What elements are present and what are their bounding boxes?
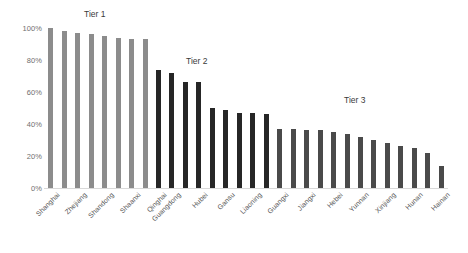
bar xyxy=(129,39,134,188)
x-axis-tick-label-text: Shaanxi xyxy=(118,191,141,214)
bar xyxy=(143,39,148,188)
x-axis-tick-label-text: Hainan xyxy=(430,191,451,212)
x-axis-tick-label-text: Shandong xyxy=(86,191,114,219)
bar xyxy=(250,113,255,188)
bar xyxy=(345,134,350,188)
bar-series xyxy=(44,28,448,188)
x-axis-tick-label: Zhejiang xyxy=(63,191,88,216)
y-axis-tick-label: 60% xyxy=(2,88,42,97)
bar xyxy=(318,130,323,188)
y-axis-tick-label: 100% xyxy=(2,24,42,33)
bar xyxy=(62,31,67,188)
bar xyxy=(371,140,376,188)
x-axis-tick-label: Liaoning xyxy=(238,191,262,215)
bar xyxy=(291,129,296,188)
tier-2-annotation: Tier 2 xyxy=(186,56,207,66)
bar xyxy=(398,146,403,188)
x-axis-tick-label-text: Gansu xyxy=(216,191,236,211)
x-axis-tick-label-text: Yunnan xyxy=(348,191,370,213)
y-axis-tick-label: 0% xyxy=(2,184,42,193)
bar xyxy=(196,82,201,188)
x-axis-tick-label: Hainan xyxy=(430,191,451,212)
bar xyxy=(277,129,282,188)
x-axis-tick-label: Hunan xyxy=(404,191,424,211)
x-axis-tick-label-text: Xinjiang xyxy=(374,191,397,214)
bar xyxy=(210,108,215,188)
x-axis-tick-label: Hubei xyxy=(191,191,209,209)
bar-chart: 100%80%60%40%20%0% Tier 1 Tier 2 Tier 3 … xyxy=(0,0,468,253)
x-axis-tick-label-text: Hebei xyxy=(325,191,343,209)
bar xyxy=(425,153,430,188)
bar xyxy=(385,143,390,188)
bar xyxy=(102,36,107,188)
bar xyxy=(412,148,417,188)
x-axis-line xyxy=(44,188,448,189)
bar xyxy=(237,113,242,188)
bar xyxy=(156,70,161,188)
bar xyxy=(439,166,444,188)
bar xyxy=(223,110,228,188)
x-axis-tick-label-text: Zhejiang xyxy=(63,191,88,216)
bar xyxy=(358,137,363,188)
y-axis-tick-label: 20% xyxy=(2,152,42,161)
x-axis-tick-label: Shandong xyxy=(86,191,114,219)
x-axis-tick-label: Guangxi xyxy=(266,191,290,215)
bar xyxy=(89,34,94,188)
bar xyxy=(169,73,174,188)
x-axis-tick-label: Hebei xyxy=(325,191,343,209)
y-axis-tick-label: 40% xyxy=(2,120,42,129)
tier-3-annotation: Tier 3 xyxy=(344,95,365,105)
bar xyxy=(331,132,336,188)
x-axis-tick-label-text: Jiangxi xyxy=(296,191,317,212)
bar xyxy=(264,114,269,188)
x-axis-tick-label: Yunnan xyxy=(348,191,370,213)
bar xyxy=(183,82,188,188)
x-axis-tick-label: Jiangxi xyxy=(296,191,317,212)
bar xyxy=(75,33,80,188)
y-axis-tick-label: 80% xyxy=(2,56,42,65)
x-axis-tick-label-text: Hubei xyxy=(191,191,209,209)
tier-1-annotation: Tier 1 xyxy=(84,9,105,19)
bar xyxy=(304,130,309,188)
y-axis: 100%80%60%40%20%0% xyxy=(0,0,42,253)
bar xyxy=(48,28,53,188)
plot-area xyxy=(44,28,448,188)
x-axis-tick-label-text: Liaoning xyxy=(238,191,262,215)
x-axis-tick-label: Gansu xyxy=(216,191,236,211)
x-axis-tick-label: Xinjiang xyxy=(374,191,397,214)
bar xyxy=(116,38,121,188)
x-axis-tick-label-text: Guangxi xyxy=(266,191,290,215)
x-axis-tick-label: Shaanxi xyxy=(118,191,141,214)
x-axis-tick-label-text: Hunan xyxy=(404,191,424,211)
